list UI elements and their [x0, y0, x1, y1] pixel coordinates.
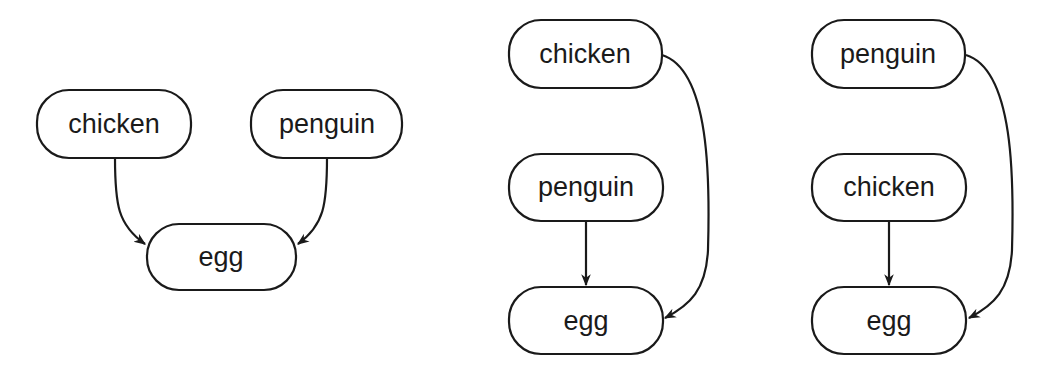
- node-label: chicken: [843, 172, 935, 202]
- node-egg: egg: [147, 224, 296, 290]
- diagram-middle: chicken penguin egg: [509, 20, 709, 354]
- node-penguin: penguin: [509, 154, 663, 221]
- node-egg: egg: [509, 287, 663, 354]
- node-label: penguin: [840, 39, 936, 69]
- node-penguin: penguin: [251, 90, 402, 158]
- node-label: egg: [198, 242, 243, 272]
- diagram-right: penguin chicken egg: [812, 20, 1013, 354]
- node-label: chicken: [539, 39, 631, 69]
- node-chicken: chicken: [812, 154, 966, 221]
- node-label: penguin: [279, 109, 375, 139]
- node-label: egg: [563, 306, 608, 336]
- diagram-canvas: chicken penguin egg chicken penguin egg: [0, 0, 1047, 379]
- edge-chicken-to-egg: [115, 158, 145, 244]
- diagram-left: chicken penguin egg: [37, 90, 402, 290]
- node-label: egg: [866, 306, 911, 336]
- node-penguin: penguin: [812, 20, 965, 88]
- edge-chicken-to-egg: [662, 55, 709, 318]
- node-chicken: chicken: [37, 90, 191, 158]
- node-chicken: chicken: [509, 20, 662, 88]
- node-label: penguin: [538, 172, 634, 202]
- edge-penguin-to-egg: [298, 158, 327, 244]
- edge-penguin-to-egg: [966, 55, 1013, 318]
- node-label: chicken: [68, 109, 160, 139]
- node-egg: egg: [812, 287, 966, 354]
